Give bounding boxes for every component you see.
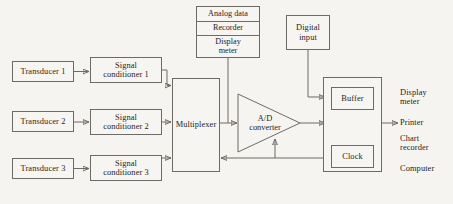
block-buffer[interactable]: Buffer [331, 87, 374, 110]
block-signal-conditioner-1-label: Signal conditioner 1 [103, 61, 149, 79]
block-clock-label: Clock [342, 152, 363, 161]
block-transducer-1-label: Transducer 1 [21, 67, 66, 76]
output-label-chart-recorder: Chart recorder [400, 134, 429, 153]
block-analog-data-stack[interactable]: Analog data Recorder Display meter [196, 6, 260, 58]
block-signal-conditioner-1[interactable]: Signal conditioner 1 [90, 57, 162, 83]
block-transducer-2[interactable]: Transducer 2 [12, 111, 74, 132]
block-buffer-label: Buffer [341, 94, 363, 103]
display-meter-row: Display meter [197, 36, 259, 57]
block-signal-conditioner-2[interactable]: Signal conditioner 2 [90, 109, 162, 135]
analog-data-row: Analog data [197, 7, 259, 22]
block-diagram-canvas: Transducer 1 Transducer 2 Transducer 3 S… [0, 0, 453, 204]
block-multiplexer[interactable]: Multiplexer [172, 78, 220, 172]
block-transducer-2-label: Transducer 2 [21, 117, 66, 126]
block-digital-input[interactable]: Digital input [286, 15, 330, 50]
block-transducer-1[interactable]: Transducer 1 [12, 61, 74, 82]
block-clock[interactable]: Clock [331, 145, 374, 168]
output-label-computer: Computer [400, 164, 434, 173]
block-signal-conditioner-3[interactable]: Signal conditioner 3 [90, 155, 162, 181]
block-signal-conditioner-2-label: Signal conditioner 2 [103, 113, 149, 131]
block-signal-conditioner-3-label: Signal conditioner 3 [103, 159, 149, 177]
output-label-display-meter: Display meter [400, 88, 427, 107]
block-transducer-3-label: Transducer 3 [21, 164, 66, 173]
output-label-printer: Printer [400, 118, 424, 127]
wire-conditioner1-multiplexer [162, 70, 171, 86]
block-transducer-3[interactable]: Transducer 3 [12, 158, 74, 179]
block-digital-input-label: Digital input [296, 23, 320, 41]
block-ad-converter-label: A/D converter [243, 114, 287, 132]
block-multiplexer-label: Multiplexer [176, 120, 217, 129]
recorder-row: Recorder [197, 22, 259, 36]
